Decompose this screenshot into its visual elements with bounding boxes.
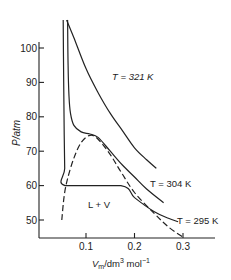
y-tick-label: 50 bbox=[26, 215, 38, 226]
label-t295: T = 295 K bbox=[177, 215, 219, 226]
x-label-mol: mol bbox=[124, 258, 142, 269]
x-label-dm: /dm bbox=[104, 258, 120, 269]
x-axis-label: Vm/dm3 mol−1 bbox=[92, 257, 150, 270]
y-axis-label: P/atm bbox=[11, 120, 22, 146]
y-tick-label: 80 bbox=[26, 111, 38, 122]
y-tick-label: 70 bbox=[26, 146, 38, 157]
x-tick-label: 0.3 bbox=[176, 241, 190, 252]
x-label-supm1: −1 bbox=[142, 257, 150, 264]
curve-t-304-k bbox=[68, 20, 164, 203]
y-tick-label: 90 bbox=[26, 77, 38, 88]
pv-isotherm-chart: 50607080901000.10.20.3 T = 321 K T = 304… bbox=[0, 0, 231, 280]
curve-t-321-k bbox=[67, 20, 157, 168]
x-tick-label: 0.2 bbox=[128, 241, 142, 252]
y-tick-label: 100 bbox=[20, 43, 37, 54]
y-tick-label: 60 bbox=[26, 180, 38, 191]
label-t304: T = 304 K bbox=[150, 178, 192, 189]
label-region-lv: L + V bbox=[88, 199, 111, 210]
label-t321: T = 321 K bbox=[112, 71, 154, 82]
x-tick-label: 0.1 bbox=[79, 241, 93, 252]
isotherm-curves bbox=[61, 20, 183, 237]
